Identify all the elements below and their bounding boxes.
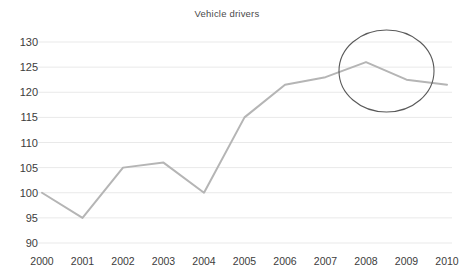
x-axis-tick-label: 2001: [71, 255, 94, 267]
x-axis-tick-label: 2010: [435, 255, 458, 267]
x-axis-tick-label: 2006: [273, 255, 296, 267]
x-axis-tick-label: 2007: [314, 255, 337, 267]
x-axis-tick-label: 2000: [30, 255, 53, 267]
x-axis-tick-label: 2009: [395, 255, 418, 267]
x-axis-tick-label: 2008: [354, 255, 377, 267]
x-axis-tick-label: 2005: [233, 255, 256, 267]
x-axis: 2000200120022003200420052006200720082009…: [0, 255, 454, 275]
x-axis-tick-label: 2002: [111, 255, 134, 267]
data-series-line: [42, 62, 447, 218]
x-axis-tick-label: 2004: [192, 255, 215, 267]
x-axis-tick-label: 2003: [152, 255, 175, 267]
